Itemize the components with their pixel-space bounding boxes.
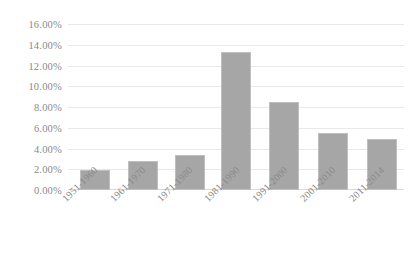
y-tick-label: 10.00% (4, 81, 62, 92)
x-axis-labels: 1951-1960 1961-1970 1971-1980 1981-1990 … (68, 190, 404, 269)
y-tick-label: 6.00% (4, 122, 62, 133)
y-tick-label: 16.00% (4, 19, 62, 30)
y-tick-label: 4.00% (4, 143, 62, 154)
y-tick-label: 8.00% (4, 102, 62, 113)
y-tick-label: 0.00% (4, 185, 62, 196)
y-tick-label: 12.00% (4, 60, 62, 71)
bar-chart: 16.00% 14.00% 12.00% 10.00% 8.00% 6.00% … (0, 0, 418, 269)
y-axis-labels: 16.00% 14.00% 12.00% 10.00% 8.00% 6.00% … (0, 0, 62, 269)
plot-area (68, 24, 404, 190)
y-tick-label: 2.00% (4, 164, 62, 175)
bars-layer (68, 24, 404, 190)
y-tick-label: 14.00% (4, 39, 62, 50)
